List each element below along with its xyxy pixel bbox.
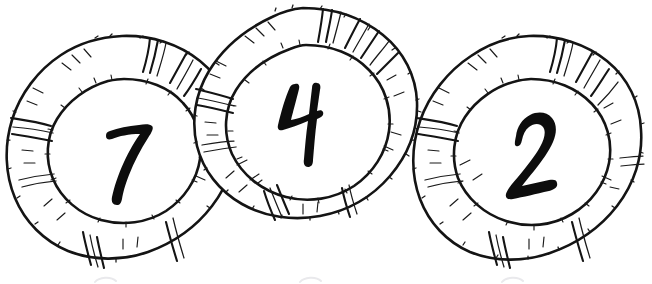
ghost-marks: [95, 278, 523, 282]
ghost-mark-left: [95, 278, 116, 282]
ghost-mark-right: [502, 278, 523, 282]
ghost-mark-center: [300, 278, 321, 282]
life-rings-illustration: Three numbered life rings: [0, 0, 652, 284]
illustration-canvas: Three numbered life rings: [0, 0, 652, 284]
